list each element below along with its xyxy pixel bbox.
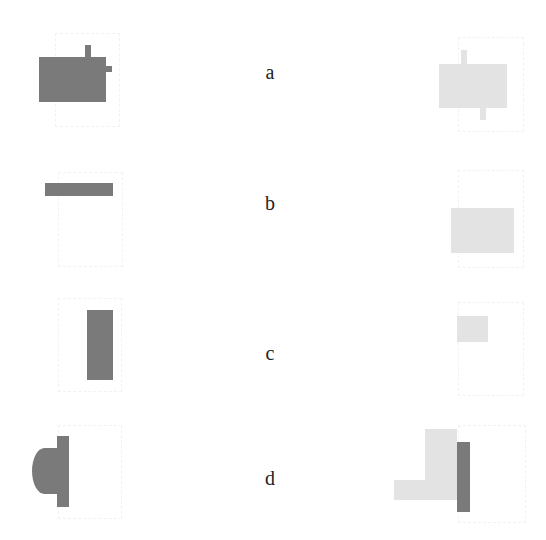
panel-a-left-top-tab [85, 45, 91, 57]
panel-a-right-bottom-tab [480, 108, 486, 120]
panel-c-label: c [260, 343, 280, 363]
panel-b-label: b [260, 193, 280, 213]
panel-d-left-half-ellipse [32, 448, 57, 494]
panel-a-right-main-rect [439, 64, 507, 108]
panel-a-left-right-tab [106, 66, 112, 72]
panel-d-right-l-horizontal [394, 480, 457, 500]
panel-b-left-bar [45, 183, 113, 196]
panel-d-left-bar [57, 436, 69, 507]
panel-c-left-tall-rect [87, 310, 113, 380]
panel-a-label: a [260, 62, 280, 82]
panel-a-left-main-rect [39, 57, 106, 102]
panel-d-right-bar [457, 442, 470, 512]
panel-a-right-top-tab [461, 50, 467, 64]
panel-c-right-small-rect [457, 316, 488, 342]
panel-d-label: d [260, 468, 280, 488]
panel-b-right-rect [451, 208, 514, 253]
